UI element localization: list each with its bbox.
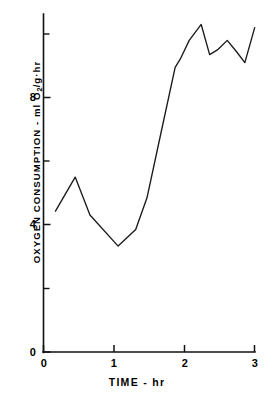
y-axis-label-tail: /g·hr	[31, 61, 42, 88]
x-axis-ticks	[44, 345, 255, 352]
y-tick-label-0: 0	[16, 346, 36, 358]
chart-figure: 0 4 8 0 1 2 3 TIME - hr OXYGEN CONSUMPTI…	[0, 0, 274, 397]
axes-group	[43, 14, 255, 353]
x-tick-label-2: 2	[175, 357, 195, 369]
x-axis-label: TIME - hr	[0, 376, 274, 388]
y-axis-label: OXYGEN CONSUMPTION - ml O2/g·hr	[31, 61, 44, 263]
data-series-line	[55, 24, 254, 246]
x-tick-label-0: 0	[34, 357, 54, 369]
y-axis-label-wrapper: OXYGEN CONSUMPTION - ml O2/g·hr	[27, 37, 47, 287]
x-tick-label-1: 1	[104, 357, 124, 369]
x-tick-label-3: 3	[245, 357, 265, 369]
y-axis-label-subscript: 2	[35, 87, 44, 91]
y-axis-label-main: OXYGEN CONSUMPTION - ml O	[31, 91, 42, 263]
